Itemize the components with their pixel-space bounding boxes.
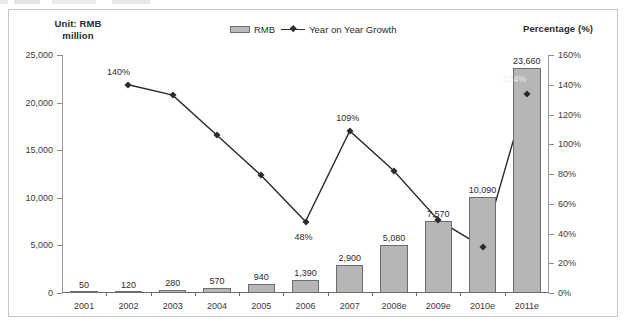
category-label-2003: 2003 bbox=[163, 301, 183, 311]
left-axis-tick-label: 10,000 bbox=[25, 193, 53, 203]
left-axis-tick bbox=[57, 103, 62, 104]
bar-2007[interactable] bbox=[336, 265, 363, 293]
plot-area: 05,00010,00015,00020,00025,0000%20%40%60… bbox=[62, 55, 549, 293]
left-axis-title-line1: Unit: RMB bbox=[32, 18, 124, 30]
legend-label-growth: Year on Year Growth bbox=[309, 24, 396, 35]
right-axis-tick bbox=[549, 55, 554, 56]
growth-line-path bbox=[128, 85, 526, 247]
right-axis-tick bbox=[549, 234, 554, 235]
bar-value-label: 2,900 bbox=[339, 253, 362, 263]
right-axis-tick bbox=[549, 115, 554, 116]
category-axis-tick bbox=[195, 292, 196, 296]
bar-value-label: 280 bbox=[165, 278, 180, 288]
left-axis-tick-label: 0 bbox=[48, 288, 53, 298]
legend-item-growth: Year on Year Growth bbox=[281, 24, 396, 35]
right-axis-tick-label: 140% bbox=[558, 80, 581, 90]
category-axis-tick bbox=[151, 292, 152, 296]
category-axis-tick bbox=[460, 292, 461, 296]
category-axis-tick bbox=[239, 292, 240, 296]
chart-legend: RMB Year on Year Growth bbox=[230, 22, 396, 36]
right-axis-tick-label: 160% bbox=[558, 50, 581, 60]
left-axis-tick bbox=[57, 293, 62, 294]
right-axis-tick-label: 60% bbox=[558, 199, 576, 209]
category-label-2004: 2004 bbox=[207, 301, 227, 311]
left-axis-tick bbox=[57, 150, 62, 151]
bar-2008e[interactable] bbox=[380, 245, 407, 293]
bar-2002[interactable] bbox=[115, 291, 142, 293]
right-axis-tick bbox=[549, 204, 554, 205]
bar-value-label: 570 bbox=[209, 276, 224, 286]
right-axis-tick-label: 40% bbox=[558, 229, 576, 239]
category-label-2009e: 2009e bbox=[426, 301, 451, 311]
right-axis-tick-label: 20% bbox=[558, 258, 576, 268]
category-label-2005: 2005 bbox=[251, 301, 271, 311]
bar-value-label: 120 bbox=[121, 280, 136, 290]
right-axis-tick-label: 0% bbox=[558, 288, 571, 298]
right-axis-tick-label: 100% bbox=[558, 139, 581, 149]
right-axis-tick bbox=[549, 144, 554, 145]
legend-line-marker-icon bbox=[281, 25, 305, 34]
bar-value-label: 940 bbox=[254, 272, 269, 282]
category-label-2006: 2006 bbox=[295, 301, 315, 311]
bar-2005[interactable] bbox=[248, 284, 275, 293]
bar-2001[interactable] bbox=[70, 291, 97, 293]
right-axis-tick bbox=[549, 263, 554, 264]
category-axis-tick bbox=[416, 292, 417, 296]
bar-2011e[interactable] bbox=[513, 68, 540, 293]
growth-value-label-2011e: 134% bbox=[503, 74, 526, 84]
left-axis-tick bbox=[57, 198, 62, 199]
left-axis-line bbox=[62, 55, 63, 293]
growth-value-label-2002: 140% bbox=[107, 67, 130, 77]
category-axis-tick bbox=[283, 292, 284, 296]
bar-2004[interactable] bbox=[203, 288, 230, 293]
bar-2009e[interactable] bbox=[425, 221, 452, 293]
growth-marker-2007[interactable] bbox=[346, 127, 353, 134]
category-label-2011e: 2011e bbox=[515, 301, 539, 311]
growth-marker-2005[interactable] bbox=[258, 172, 265, 179]
bar-value-label: 1,390 bbox=[294, 268, 317, 278]
left-axis-tick-label: 25,000 bbox=[25, 50, 53, 60]
bar-value-label: 23,660 bbox=[513, 56, 541, 66]
left-axis-tick bbox=[57, 245, 62, 246]
right-axis-title: Percentage (%) bbox=[512, 23, 604, 34]
left-axis-title: Unit: RMB million bbox=[32, 18, 124, 41]
right-axis-tick bbox=[549, 174, 554, 175]
legend-item-rmb: RMB bbox=[230, 24, 275, 35]
growth-marker-2006[interactable] bbox=[302, 218, 309, 225]
category-axis-tick bbox=[372, 292, 373, 296]
scan-edge-artifact bbox=[0, 0, 630, 4]
category-axis-tick bbox=[106, 292, 107, 296]
right-axis-tick bbox=[549, 85, 554, 86]
growth-marker-2008e[interactable] bbox=[390, 167, 397, 174]
left-axis-tick-label: 20,000 bbox=[25, 98, 53, 108]
category-label-2002: 2002 bbox=[118, 301, 138, 311]
right-axis-tick bbox=[549, 293, 554, 294]
left-axis-tick-label: 15,000 bbox=[25, 145, 53, 155]
category-label-2008e: 2008e bbox=[382, 301, 407, 311]
growth-marker-2003[interactable] bbox=[169, 92, 176, 99]
left-axis-title-line2: million bbox=[32, 30, 124, 42]
bar-value-label: 5,080 bbox=[383, 233, 406, 243]
category-label-2001: 2001 bbox=[74, 301, 94, 311]
left-axis-tick bbox=[57, 55, 62, 56]
growth-marker-2002[interactable] bbox=[125, 81, 132, 88]
category-axis-tick bbox=[328, 292, 329, 296]
right-axis-tick-label: 80% bbox=[558, 169, 576, 179]
right-axis-tick-label: 120% bbox=[558, 110, 581, 120]
bar-value-label: 10,090 bbox=[469, 185, 497, 195]
chart-figure: Unit: RMB million Percentage (%) RMB Yea… bbox=[0, 0, 630, 329]
legend-bar-swatch-icon bbox=[230, 26, 250, 33]
bar-value-label: 50 bbox=[79, 280, 89, 290]
left-axis-tick-label: 5,000 bbox=[30, 240, 53, 250]
growth-marker-2004[interactable] bbox=[213, 132, 220, 139]
category-label-2010e: 2010e bbox=[470, 301, 495, 311]
category-label-2007: 2007 bbox=[340, 301, 360, 311]
legend-label-rmb: RMB bbox=[254, 24, 275, 35]
growth-value-label-2007: 109% bbox=[336, 113, 359, 123]
category-axis-tick bbox=[505, 292, 506, 296]
bar-2003[interactable] bbox=[159, 290, 186, 293]
growth-value-label-2006: 48% bbox=[294, 232, 312, 242]
bar-2006[interactable] bbox=[292, 280, 319, 293]
